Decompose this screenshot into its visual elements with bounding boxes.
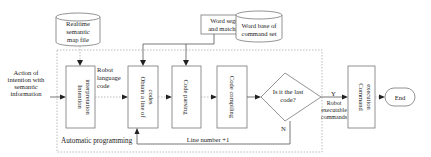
input-label-line-3: semantic [14, 83, 38, 90]
robot-language-line-2: language [97, 74, 121, 81]
compiling-line-1: Code compiling [229, 76, 236, 119]
arrow-head [342, 95, 348, 100]
command-execution-box: Command execution [348, 66, 375, 128]
end-label: End [395, 94, 406, 101]
semantic-map-line-2: semantic [66, 28, 90, 35]
obtain-line-2: codes [148, 89, 155, 104]
code-parsing-box: Code parsing [172, 66, 201, 128]
arrow-head [140, 60, 146, 66]
execution-line-1: Command [358, 83, 365, 111]
semantic-map-cylinder: Realtime semantic map file [56, 13, 100, 46]
parsing-line-1: Code parsing [183, 80, 190, 116]
robot-exec-line-2: executable [321, 107, 347, 113]
execution-line-2: execution [366, 84, 373, 110]
semantic-map-line-1: Realtime [66, 20, 90, 27]
word-base-line-2: command set [242, 30, 277, 37]
arrow-head [166, 95, 172, 100]
arrow-head [135, 128, 140, 134]
arrow-head [60, 95, 66, 100]
obtain-line-1: Obtain a line of [140, 76, 147, 118]
no-label: N [281, 125, 286, 132]
arrow-head [211, 95, 217, 100]
decision-line-2: code? [280, 96, 295, 103]
arrow-head [183, 60, 189, 66]
code-compiling-box: Code compiling [217, 66, 247, 128]
word-base-line-1: Word base of [242, 22, 278, 29]
yes-label: Y [331, 90, 336, 97]
robot-language-line-1: Robot [97, 66, 113, 73]
arrow-head [255, 95, 261, 100]
intention-line-1: Intention [77, 85, 84, 110]
input-label-line-1: Action of [13, 69, 39, 76]
semantic-map-line-3: map file [67, 36, 89, 43]
arrow-head [122, 95, 128, 100]
flowchart: Automatic programming Realtime semantic … [0, 0, 431, 157]
intention-line-2: interpretation [85, 79, 92, 115]
arrow-head [379, 95, 385, 100]
end-terminator: End [385, 88, 415, 106]
decision-line-1: Is it the last [273, 88, 304, 95]
robot-exec-line-3: commands [321, 114, 348, 120]
robot-language-line-3: code [97, 82, 110, 89]
line-number-label: Line number +1 [187, 136, 230, 143]
arrow-head [77, 60, 83, 66]
intention-interpretation-box: Intention interpretation [66, 66, 95, 128]
robot-exec-line-1: Robot [327, 100, 342, 106]
container-label: Automatic programming [61, 137, 133, 145]
obtain-line-box: Obtain a line of codes [128, 66, 158, 128]
input-label-line-4: information [10, 90, 42, 97]
last-code-decision: Is it the last code? [261, 73, 321, 121]
input-label-line-2: intention with [8, 76, 46, 83]
word-base-cylinder: Word base of command set [236, 11, 282, 42]
